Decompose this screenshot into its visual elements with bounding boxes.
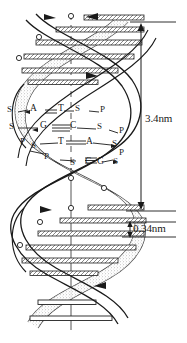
rise-dimension-label: 0.34nm	[133, 223, 166, 234]
row4-base-right: G	[97, 157, 104, 167]
rung	[22, 258, 118, 263]
row1-base-left: A	[30, 104, 37, 114]
row4-base-left: C	[85, 157, 91, 167]
row3-base-right: A	[86, 137, 93, 147]
row2-right-sugar: S	[97, 122, 102, 131]
dna-double-helix-figure: 3.4nm 0.34nm S A T S P S G C S P P S T A…	[0, 0, 187, 343]
backbone-connector-lines	[18, 110, 118, 162]
phosphate-circle	[37, 219, 42, 224]
rung	[38, 300, 96, 305]
row1-base-right: T	[58, 104, 64, 114]
row3-right-sugar: S	[112, 139, 117, 148]
row4-right-sugar: S	[113, 157, 118, 166]
connector	[93, 143, 111, 145]
phosphate-markers	[16, 13, 106, 247]
connector	[89, 111, 99, 112]
rung	[30, 316, 112, 321]
row3-base-left: T	[58, 137, 64, 147]
connector	[103, 160, 113, 162]
connector	[40, 143, 58, 144]
rung	[88, 205, 144, 210]
row2-base-right: C	[70, 121, 76, 131]
rung	[36, 40, 142, 45]
rung	[56, 27, 144, 32]
phosphate-circle	[16, 55, 21, 60]
strand-arrow	[44, 14, 56, 20]
phosphate-circle	[68, 205, 73, 210]
phosphate-circle	[17, 242, 22, 247]
connector	[77, 128, 96, 129]
phosphate-circle	[68, 13, 73, 18]
row2-right-phosphate: P	[119, 126, 124, 135]
rung	[26, 245, 136, 250]
pitch-dimension-label: 3.4nm	[145, 113, 172, 124]
row4-left-sugar: S	[70, 158, 75, 167]
phosphate-circle	[36, 34, 41, 39]
row3-left-sugar: S	[31, 141, 36, 150]
row1-right-phosphate: P	[100, 105, 105, 114]
row3-right-phosphate: P	[119, 148, 124, 157]
phosphate-circle	[101, 185, 106, 190]
dna-helix-drawing	[0, 0, 187, 343]
bond-double-row3	[66, 141, 86, 144]
row4-left-phosphate: P	[44, 152, 49, 161]
row2-base-left: G	[40, 121, 47, 131]
bond-triple-row2	[52, 125, 70, 131]
dna-strand-front-outline	[11, 14, 141, 324]
row3-left-phosphate: P	[20, 137, 25, 146]
rung	[24, 54, 134, 59]
row1-right-sugar: S	[75, 104, 80, 113]
strand-arrow	[40, 206, 52, 213]
row2-left-sugar: S	[9, 122, 14, 131]
connector	[109, 130, 118, 133]
phosphate-circle	[68, 175, 73, 180]
row1-left-sugar: S	[7, 105, 12, 114]
